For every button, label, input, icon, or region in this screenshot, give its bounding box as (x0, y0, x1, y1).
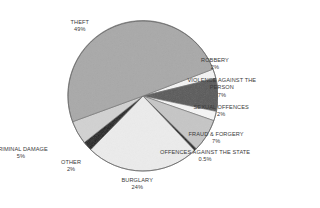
label-line: 49% (71, 26, 90, 33)
label-line: OTHER (61, 159, 81, 166)
label-criminal-damage: CRIMINAL DAMAGE5% (0, 146, 48, 161)
label-line: ROBBERY (201, 57, 229, 64)
label-line: 5% (0, 153, 48, 160)
label-burglary: BURGLARY24% (122, 177, 153, 192)
label-fraud-forgery: FRAUD & FORGERY7% (189, 131, 244, 146)
label-line: PERSON (188, 84, 257, 91)
label-line: SEXUAL OFFENCES (194, 104, 249, 111)
label-sexual-offences: SEXUAL OFFENCES2% (194, 104, 249, 119)
label-line: 2% (61, 166, 81, 173)
label-line: BURGLARY (122, 177, 153, 184)
label-line: VIOLENCE AGAINST THE (188, 77, 257, 84)
label-line: 7% (188, 92, 257, 99)
label-line: 2% (194, 111, 249, 118)
label-line: 2% (201, 64, 229, 71)
label-line: CRIMINAL DAMAGE (0, 146, 48, 153)
label-line: FRAUD & FORGERY (189, 131, 244, 138)
label-line: 0.5% (160, 156, 250, 163)
label-other: OTHER2% (61, 159, 81, 174)
label-line: 7% (189, 138, 244, 145)
pie-chart (0, 0, 320, 208)
label-violence: VIOLENCE AGAINST THEPERSON7% (188, 77, 257, 99)
label-offences-state: OFFENCES AGAINST THE STATE0.5% (160, 149, 250, 164)
label-robbery: ROBBERY2% (201, 57, 229, 72)
label-line: THEFT (71, 19, 90, 26)
label-line: 24% (122, 184, 153, 191)
label-line: OFFENCES AGAINST THE STATE (160, 149, 250, 156)
label-theft: THEFT49% (71, 19, 90, 34)
